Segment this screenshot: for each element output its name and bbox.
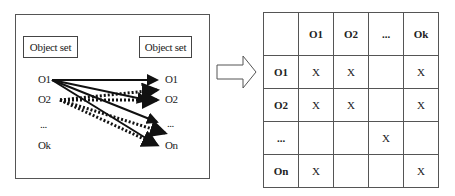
matrix-cell <box>334 155 369 188</box>
matrix-cell: X <box>299 89 334 122</box>
matrix-cell <box>369 155 404 188</box>
matrix-cell <box>299 122 334 155</box>
matrix-cell: X <box>404 89 439 122</box>
mapping-arrows <box>0 0 230 196</box>
matrix-cell: X <box>404 155 439 188</box>
column-header: Ok <box>404 13 439 56</box>
matrix-cell: X <box>334 56 369 89</box>
matrix-cell <box>369 89 404 122</box>
matrix-header-row: O1 O2 ... Ok <box>264 13 439 56</box>
matrix-cell: X <box>369 122 404 155</box>
matrix-cell <box>369 56 404 89</box>
column-header: O1 <box>299 13 334 56</box>
matrix-row: O2 X X X <box>264 89 439 122</box>
row-header: O1 <box>264 56 299 89</box>
matrix-cell: X <box>334 89 369 122</box>
matrix-cell: X <box>299 155 334 188</box>
row-header: On <box>264 155 299 188</box>
column-header: O2 <box>334 13 369 56</box>
row-header: O2 <box>264 89 299 122</box>
matrix-row: On X X <box>264 155 439 188</box>
matrix-cell <box>334 122 369 155</box>
matrix-row: O1 X X X <box>264 56 439 89</box>
column-header: ... <box>369 13 404 56</box>
right-block-arrow-icon <box>216 55 258 89</box>
matrix-cell <box>404 122 439 155</box>
relation-matrix: O1 O2 ... Ok O1 X X X O2 X X X ... X On … <box>263 12 439 188</box>
matrix-cell: X <box>404 56 439 89</box>
matrix-corner <box>264 13 299 56</box>
matrix-cell: X <box>299 56 334 89</box>
row-header: ... <box>264 122 299 155</box>
matrix-row: ... X <box>264 122 439 155</box>
